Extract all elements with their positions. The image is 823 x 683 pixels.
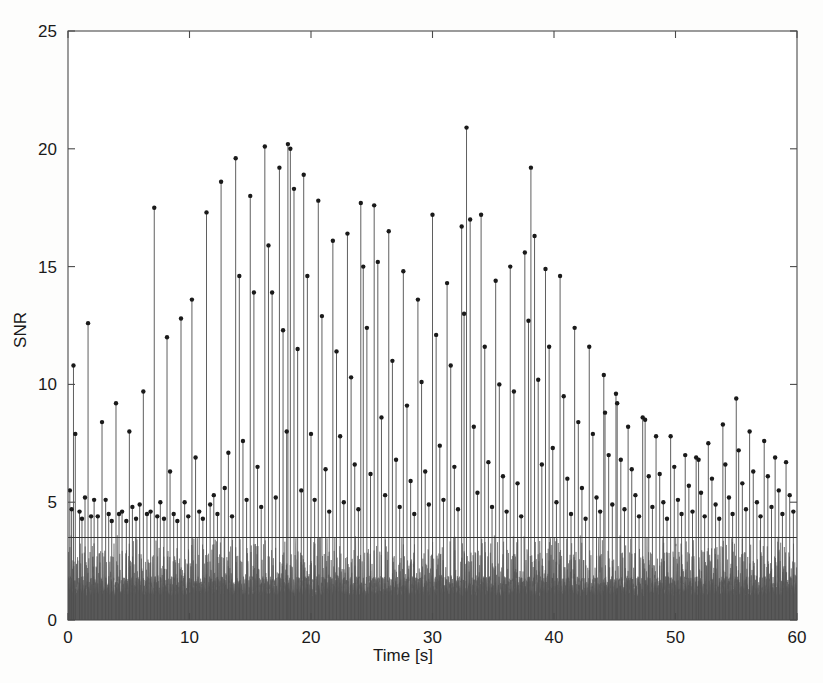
peak-marker <box>141 389 145 393</box>
peak-marker <box>650 505 654 509</box>
peak-marker <box>773 455 777 459</box>
peak-marker <box>405 403 409 407</box>
peak-marker <box>602 373 606 377</box>
peak-marker <box>434 333 438 337</box>
peak-marker <box>244 498 248 502</box>
peak-marker <box>562 394 566 398</box>
peak-marker <box>193 455 197 459</box>
peak-marker <box>710 476 714 480</box>
peak-marker <box>201 516 205 520</box>
peak-marker <box>547 345 551 349</box>
peak-marker <box>777 488 781 492</box>
peak-marker <box>230 514 234 518</box>
peak-marker <box>286 142 290 146</box>
peak-marker <box>416 297 420 301</box>
peak-marker <box>327 509 331 513</box>
peak-marker <box>215 512 219 516</box>
peak-marker <box>92 498 96 502</box>
peak-marker <box>120 509 124 513</box>
peak-marker <box>408 479 412 483</box>
peak-marker <box>237 274 241 278</box>
peak-marker <box>717 516 721 520</box>
peak-marker <box>576 420 580 424</box>
peak-marker <box>379 415 383 419</box>
y-axis-tick-label: 5 <box>48 493 57 512</box>
peak-marker <box>390 359 394 363</box>
peak-marker <box>430 213 434 217</box>
peak-marker <box>445 281 449 285</box>
peak-marker <box>727 495 731 499</box>
x-axis-tick-label: 60 <box>788 628 807 647</box>
peak-marker <box>526 319 530 323</box>
peak-marker <box>630 467 634 471</box>
x-axis-tick-label: 40 <box>545 628 564 647</box>
peak-marker <box>606 453 610 457</box>
peak-marker <box>490 505 494 509</box>
peak-marker <box>583 516 587 520</box>
peak-marker <box>412 512 416 516</box>
peak-marker <box>723 462 727 466</box>
peak-marker <box>643 418 647 422</box>
peak-marker <box>331 238 335 242</box>
y-axis-title: SNR <box>11 312 30 348</box>
peak-marker <box>356 507 360 511</box>
peak-marker <box>252 290 256 294</box>
peak-marker <box>479 213 483 217</box>
peak-marker <box>277 165 281 169</box>
peak-marker <box>637 514 641 518</box>
y-axis-tick-label: 0 <box>48 611 57 630</box>
peak-marker <box>312 498 316 502</box>
peak-marker <box>456 507 460 511</box>
peak-marker <box>96 514 100 518</box>
peak-marker <box>299 488 303 492</box>
peak-marker <box>594 495 598 499</box>
peak-marker <box>687 484 691 488</box>
peak-marker <box>241 439 245 443</box>
peak-marker <box>387 229 391 233</box>
peak-marker <box>713 502 717 506</box>
peak-marker <box>295 347 299 351</box>
peak-marker <box>263 144 267 148</box>
peak-marker <box>633 493 637 497</box>
peak-marker <box>565 476 569 480</box>
peak-marker <box>587 345 591 349</box>
peak-marker <box>721 422 725 426</box>
peak-marker <box>758 514 762 518</box>
peak-marker <box>274 495 278 499</box>
x-axis-tick-label: 30 <box>423 628 442 647</box>
peak-marker <box>338 434 342 438</box>
peak-marker <box>665 516 669 520</box>
peak-marker <box>744 507 748 511</box>
peak-marker <box>320 314 324 318</box>
peak-marker <box>302 173 306 177</box>
peak-marker <box>508 264 512 268</box>
peak-marker <box>515 481 519 485</box>
peak-marker <box>86 321 90 325</box>
peak-marker <box>323 467 327 471</box>
peak-marker <box>83 495 87 499</box>
peak-marker <box>383 493 387 497</box>
peak-marker <box>543 267 547 271</box>
peak-marker <box>661 500 665 504</box>
peak-marker <box>248 194 252 198</box>
peak-marker <box>103 498 107 502</box>
peak-marker <box>647 474 651 478</box>
peak-marker <box>134 516 138 520</box>
peak-marker <box>309 432 313 436</box>
peak-marker <box>100 420 104 424</box>
peak-marker <box>441 498 445 502</box>
peak-marker <box>462 312 466 316</box>
peak-marker <box>468 217 472 221</box>
peak-marker <box>145 512 149 516</box>
peak-marker <box>158 500 162 504</box>
peak-marker <box>626 425 630 429</box>
peak-marker <box>780 512 784 516</box>
peak-marker <box>730 512 734 516</box>
y-axis-tick-label: 20 <box>38 140 57 159</box>
peak-marker <box>73 432 77 436</box>
peak-marker <box>285 429 289 433</box>
peak-marker <box>614 392 618 396</box>
peak-marker <box>449 363 453 367</box>
peak-marker <box>182 500 186 504</box>
peak-marker <box>672 465 676 469</box>
